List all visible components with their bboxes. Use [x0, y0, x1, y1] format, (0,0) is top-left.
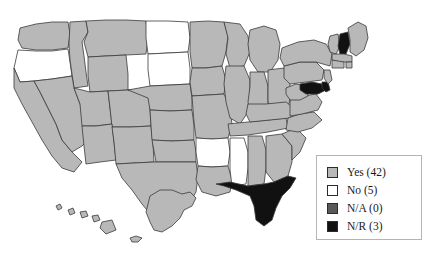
state-michigan: [248, 26, 280, 72]
legend-label-nr: N/R (3): [347, 221, 382, 232]
legend-swatch-nr: [327, 221, 338, 232]
state-wisconsin: [224, 22, 250, 68]
legend-label-na: N/A (0): [347, 203, 382, 214]
state-hawaii: [56, 204, 116, 234]
state-montana: [84, 20, 148, 57]
legend-item-yes: Yes (42): [327, 163, 421, 181]
legend-swatch-na: [327, 203, 338, 214]
state-alaska: [146, 190, 196, 232]
state-north-dakota: [146, 21, 190, 54]
state-maine: [348, 22, 368, 56]
state-oklahoma: [152, 140, 196, 162]
state-louisiana: [196, 166, 232, 196]
state-minnesota: [190, 21, 228, 68]
alaska-aleutians: [130, 236, 142, 242]
state-washington: [18, 22, 70, 50]
state-pennsylvania: [284, 62, 324, 84]
state-rhode-island: [346, 62, 352, 68]
state-arkansas: [196, 138, 230, 167]
us-choropleth-figure: Yes (42) No (5) N/A (0) N/R (3): [0, 0, 431, 262]
state-wyoming: [88, 55, 128, 92]
legend-item-nr: N/R (3): [327, 217, 421, 235]
legend: Yes (42) No (5) N/A (0) N/R (3): [316, 155, 422, 240]
state-new-york: [280, 40, 332, 66]
state-alabama: [248, 136, 266, 186]
legend-label-yes: Yes (42): [347, 167, 386, 178]
state-new-mexico: [112, 126, 154, 164]
state-mississippi: [230, 138, 248, 186]
state-new-hampshire: [338, 32, 350, 54]
legend-swatch-yes: [327, 167, 338, 178]
state-iowa: [190, 66, 226, 96]
legend-swatch-no: [327, 185, 338, 196]
legend-item-na: N/A (0): [327, 199, 421, 217]
state-kansas: [150, 110, 194, 141]
state-arizona: [82, 124, 116, 164]
legend-label-no: No (5): [347, 185, 377, 196]
legend-item-no: No (5): [327, 181, 421, 199]
state-south-dakota: [148, 52, 190, 86]
